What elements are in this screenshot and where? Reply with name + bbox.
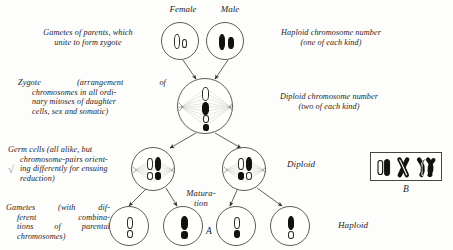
panel-label-b-text: B	[403, 184, 409, 194]
chromosome-black-large	[155, 157, 161, 171]
caption-zygote: Zygote (arrangement of chromosomes in al…	[18, 78, 166, 116]
header-male-label: Male	[221, 4, 240, 14]
chromosome-black-large	[219, 34, 225, 50]
inset-b-figures	[371, 153, 443, 182]
chromosome-white-large	[147, 158, 153, 170]
caption-germ-cells: Germ cells (all alike, but chromosome-pa…	[8, 145, 140, 183]
caption-line: chromosomes in all ordi-	[18, 88, 166, 98]
paired-chromosomes	[378, 160, 390, 176]
caption-line: nary mitoses of daughter	[18, 97, 166, 107]
chromosome-white-small	[246, 172, 252, 180]
crossed-chromosomes-x	[400, 160, 408, 176]
chromosome-white-large	[234, 217, 240, 229]
caption-line: cells, sex and somatic)	[18, 107, 166, 117]
header-male: Male	[203, 4, 257, 14]
chromosome-black-large	[288, 216, 294, 230]
caption-line: Zygote (arrangement of	[18, 78, 166, 88]
caption-haploid: Haploid	[338, 221, 392, 231]
inset-b-box	[370, 152, 442, 181]
chromosome-black-small	[234, 230, 240, 238]
gamete-cell-4	[270, 206, 310, 246]
gamete-cell-2	[163, 206, 203, 246]
crossed-chromosomes-double	[419, 160, 434, 176]
chromosome-black-small	[203, 124, 209, 131]
caption-line: ing differently for ensuing	[8, 164, 140, 174]
chromosome-white-small	[127, 230, 133, 238]
caption-gametes-different-combinations: Gametes (with dif- ferent combina- tions…	[6, 203, 110, 241]
gamete-cell-3	[216, 206, 256, 246]
panel-label-a-text: A	[206, 226, 212, 236]
caption-line: unite to form zygote	[16, 38, 160, 48]
caption-line: Gametes (with dif-	[6, 203, 110, 213]
chromosome-white-large	[174, 34, 180, 49]
germ-cell-right	[222, 147, 266, 191]
chromosome-white-small	[182, 39, 187, 48]
chromosome-black-small	[181, 231, 188, 239]
caption-gametes-of-parents: Gametes of parents, which unite to form …	[16, 28, 160, 47]
panel-label-a: A	[206, 226, 212, 236]
chromosome-black-small	[228, 37, 234, 49]
chromosome-white-large	[127, 217, 133, 229]
chromosome-black-small	[155, 172, 161, 180]
caption-maturation: Matura- tion	[178, 188, 224, 208]
caption-line: ferent combina-	[6, 213, 110, 223]
caption-diploid-chromosome-number: Diploid chromosome number (two of each k…	[249, 92, 409, 111]
caption-diploid: Diploid	[287, 160, 337, 170]
caption-haploid-chromosome-number: Haploid chromosome number (one of each k…	[251, 28, 411, 47]
chromosome-black-large	[246, 157, 252, 171]
figure-root: Female Male Gametes of parents, which un…	[0, 0, 453, 250]
margin-check-mark: √	[8, 163, 14, 175]
meiotic-spindle-left	[132, 148, 176, 192]
chromosome-black-large	[181, 216, 188, 230]
caption-line: Matura-	[178, 188, 224, 198]
caption-line: (two of each kind)	[249, 102, 409, 112]
caption-haploid-label: Haploid	[338, 220, 368, 230]
meiotic-spindle-right	[223, 148, 267, 192]
caption-line: Diploid chromosome number	[249, 92, 409, 102]
caption-line: Germ cells (all alike, but	[8, 145, 140, 155]
caption-line: reduction)	[8, 174, 140, 184]
gamete-cell-1	[109, 206, 149, 246]
germ-cell-left	[131, 147, 175, 191]
chromosome-white-small	[147, 172, 153, 180]
caption-line: (one of each kind)	[251, 38, 411, 48]
zygote-cell	[177, 78, 233, 134]
header-female-label: Female	[170, 4, 197, 14]
chromosome-white-large	[202, 87, 209, 101]
panel-label-b: B	[370, 184, 442, 194]
chromosome-white-small	[203, 115, 209, 123]
margin-check-glyph: √	[8, 163, 14, 175]
caption-line: tions of parental	[6, 222, 110, 232]
chromosome-white-large	[238, 158, 244, 170]
chromosome-black-large	[202, 102, 209, 115]
caption-line: Haploid chromosome number	[251, 28, 411, 38]
female-gamete-cell	[161, 22, 199, 60]
chromosome-white-small	[288, 231, 294, 239]
caption-line: chromosome-pairs orient-	[8, 155, 140, 165]
caption-diploid-label: Diploid	[287, 159, 315, 169]
caption-line: Gametes of parents, which	[16, 28, 160, 38]
chromosome-black-small	[238, 172, 244, 180]
male-gamete-cell	[206, 22, 244, 60]
caption-line: chromosomes)	[6, 232, 110, 242]
